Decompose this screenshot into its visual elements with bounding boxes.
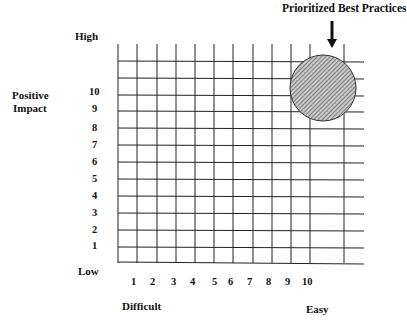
y-tick-9: 9 (92, 104, 97, 115)
x-tick-6: 6 (228, 277, 233, 288)
y-axis-low-label: Low (78, 266, 99, 277)
y-tick-2: 2 (92, 225, 97, 236)
x-tick-8: 8 (266, 277, 271, 288)
y-axis-title-line2: Impact (13, 103, 47, 114)
x-tick-5: 5 (212, 277, 217, 288)
x-axis-difficult-label: Difficult (122, 301, 161, 312)
x-tick-9: 9 (285, 277, 290, 288)
y-axis-title-line1: Positive (12, 90, 49, 101)
y-axis-high-label: High (75, 31, 98, 42)
highlight-circle (290, 55, 356, 121)
x-tick-10: 10 (302, 277, 313, 288)
prioritized-best-practices-label: Prioritized Best Practices (282, 3, 407, 15)
x-tick-1: 1 (131, 277, 136, 288)
x-tick-2: 2 (150, 277, 155, 288)
x-tick-7: 7 (247, 277, 252, 288)
arrow-down-icon (327, 21, 337, 48)
y-tick-10: 10 (89, 87, 100, 98)
y-tick-6: 6 (92, 157, 97, 168)
y-tick-8: 8 (92, 123, 97, 134)
y-tick-5: 5 (92, 174, 97, 185)
x-tick-3: 3 (171, 277, 176, 288)
x-tick-4: 4 (190, 277, 195, 288)
y-tick-4: 4 (92, 191, 97, 202)
y-tick-7: 7 (92, 140, 97, 151)
y-tick-3: 3 (92, 208, 97, 219)
x-axis-easy-label: Easy (306, 304, 329, 315)
y-tick-1: 1 (92, 241, 97, 252)
